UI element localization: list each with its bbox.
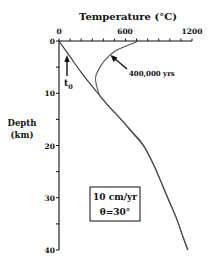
y-tick-label-30: 30 bbox=[45, 194, 55, 203]
parameter-angle: θ=30° bbox=[100, 207, 131, 217]
t0-arrow-icon bbox=[64, 55, 69, 76]
y-tick-label-20: 20 bbox=[45, 142, 55, 151]
y-tick-label-0: 0 bbox=[50, 37, 55, 46]
curve-label-400000-yrs: 400,000 yrs bbox=[129, 69, 175, 78]
parameter-rate: 10 cm/yr bbox=[93, 192, 137, 202]
y-axis-label-line2: (km) bbox=[11, 130, 34, 140]
x-tick-label-0: 0 bbox=[56, 27, 61, 36]
curve-arrow-icon bbox=[111, 55, 128, 69]
t0-label: t0 bbox=[64, 78, 73, 91]
x-tick-label-600: 600 bbox=[117, 27, 133, 36]
y-axis-label-line1: Depth bbox=[8, 118, 37, 128]
x-tick-label-1200: 1200 bbox=[182, 27, 203, 36]
chart: Temperature (°C) 0 600 1200 0 10 20 30 4… bbox=[0, 0, 213, 267]
y-tick-label-40: 40 bbox=[45, 246, 55, 255]
y-tick-label-10: 10 bbox=[45, 89, 55, 98]
chart-title: Temperature (°C) bbox=[79, 11, 177, 22]
